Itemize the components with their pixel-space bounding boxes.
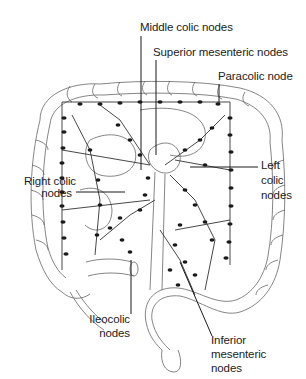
label-left-colic-line1: Left — [261, 159, 280, 172]
label-ileocolic-line1: Ileocolic — [80, 313, 130, 326]
label-inferior-mesenteric-line1: Inferior — [211, 334, 246, 347]
label-superior-mesenteric-nodes: Superior mesenteric nodes — [153, 46, 288, 59]
label-left-colic-line3: nodes — [261, 189, 292, 202]
label-left-colic-line2: colic — [261, 174, 284, 187]
label-right-colic-line2: nodes — [14, 187, 72, 200]
colon-outline — [31, 81, 285, 372]
colon-lymph-node-diagram: Middle colic nodes Superior mesenteric n… — [0, 0, 306, 379]
label-inferior-mesenteric-line3: nodes — [211, 362, 242, 375]
label-ileocolic-line2: nodes — [80, 327, 130, 340]
label-inferior-mesenteric-line2: mesenteric — [211, 348, 266, 361]
label-middle-colic-nodes: Middle colic nodes — [140, 21, 233, 34]
lymph-nodes — [59, 100, 233, 286]
label-paracolic-node: Paracolic node — [218, 70, 293, 83]
